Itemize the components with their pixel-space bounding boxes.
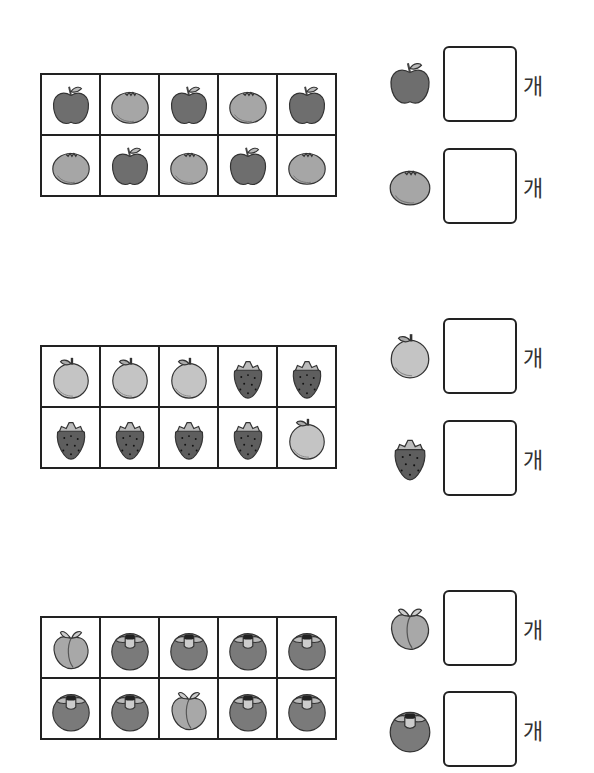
grid-cell-persimmon — [100, 617, 159, 678]
pear-count-box[interactable] — [443, 318, 517, 394]
persimmon-icon — [166, 625, 212, 671]
unit-label: 개 — [523, 170, 543, 202]
grid-cell-apple — [159, 74, 218, 135]
peach-persimmon-grid — [40, 616, 337, 740]
grid-cell-strawberry — [159, 407, 218, 468]
apple-icon — [225, 143, 271, 189]
grid-cell-strawberry — [218, 407, 277, 468]
apple-icon — [107, 143, 153, 189]
strawberry-icon — [107, 415, 153, 461]
tangerine-icon — [225, 82, 271, 128]
peach-icon — [166, 686, 212, 732]
unit-label: 개 — [523, 612, 543, 644]
answer-row-peach: 개 — [385, 590, 565, 666]
persimmon-icon — [225, 686, 271, 732]
apple-tangerine-grid — [40, 73, 337, 197]
persimmon-icon — [225, 625, 271, 671]
tangerine-icon — [107, 82, 153, 128]
grid-row — [41, 617, 336, 678]
grid-cell-pear — [100, 346, 159, 407]
grid-cell-tangerine — [277, 135, 336, 196]
apple-icon — [284, 82, 330, 128]
grid-cell-tangerine — [218, 74, 277, 135]
strawberry-label-icon — [385, 432, 435, 482]
grid-cell-persimmon — [277, 678, 336, 739]
strawberry-icon — [225, 354, 271, 400]
grid-cell-strawberry — [41, 407, 100, 468]
pear-label-icon — [385, 330, 435, 380]
grid-row — [41, 135, 336, 196]
persimmon-label-icon — [385, 703, 435, 753]
persimmon-icon — [385, 703, 435, 753]
apple-icon — [166, 82, 212, 128]
grid-cell-tangerine — [41, 135, 100, 196]
persimmon-icon — [107, 625, 153, 671]
peach-count-box[interactable] — [443, 590, 517, 666]
grid-cell-pear — [159, 346, 218, 407]
grid-cell-apple — [100, 135, 159, 196]
peach-icon — [48, 625, 94, 671]
apple-icon — [385, 58, 435, 108]
grid-cell-apple — [218, 135, 277, 196]
strawberry-icon — [225, 415, 271, 461]
pear-icon — [385, 330, 435, 380]
persimmon-icon — [107, 686, 153, 732]
persimmon-icon — [284, 686, 330, 732]
unit-label: 개 — [523, 68, 543, 100]
unit-label: 개 — [523, 340, 543, 372]
grid-cell-persimmon — [100, 678, 159, 739]
strawberry-icon — [48, 415, 94, 461]
tangerine-icon — [166, 143, 212, 189]
peach-icon — [385, 602, 435, 652]
unit-label: 개 — [523, 442, 543, 474]
tangerine-icon — [48, 143, 94, 189]
peach-label-icon — [385, 602, 435, 652]
grid-cell-persimmon — [41, 678, 100, 739]
strawberry-count-box[interactable] — [443, 420, 517, 496]
grid-cell-strawberry — [218, 346, 277, 407]
apple-count-box[interactable] — [443, 46, 517, 122]
grid-row — [41, 678, 336, 739]
strawberry-icon — [166, 415, 212, 461]
grid-cell-strawberry — [277, 346, 336, 407]
answer-row-pear: 개 — [385, 318, 565, 394]
apple-label-icon — [385, 58, 435, 108]
strawberry-icon — [284, 354, 330, 400]
pear-strawberry-grid — [40, 345, 337, 469]
grid-cell-pear — [41, 346, 100, 407]
grid-cell-persimmon — [159, 617, 218, 678]
pear-icon — [284, 415, 330, 461]
persimmon-icon — [48, 686, 94, 732]
answer-row-persimmon: 개 — [385, 691, 565, 767]
grid-cell-tangerine — [100, 74, 159, 135]
grid-cell-strawberry — [100, 407, 159, 468]
tangerine-label-icon — [385, 160, 435, 210]
grid-cell-apple — [41, 74, 100, 135]
pear-icon — [166, 354, 212, 400]
grid-cell-persimmon — [218, 678, 277, 739]
grid-cell-pear — [277, 407, 336, 468]
tangerine-icon — [385, 160, 435, 210]
grid-cell-persimmon — [218, 617, 277, 678]
persimmon-icon — [284, 625, 330, 671]
grid-row — [41, 407, 336, 468]
grid-row — [41, 346, 336, 407]
tangerine-count-box[interactable] — [443, 148, 517, 224]
strawberry-icon — [385, 432, 435, 482]
grid-row — [41, 74, 336, 135]
answer-row-apple: 개 — [385, 46, 565, 122]
grid-cell-persimmon — [277, 617, 336, 678]
pear-icon — [48, 354, 94, 400]
grid-cell-apple — [277, 74, 336, 135]
grid-cell-peach — [159, 678, 218, 739]
persimmon-count-box[interactable] — [443, 691, 517, 767]
answer-row-tangerine: 개 — [385, 148, 565, 224]
tangerine-icon — [284, 143, 330, 189]
pear-icon — [107, 354, 153, 400]
unit-label: 개 — [523, 713, 543, 745]
grid-cell-peach — [41, 617, 100, 678]
grid-cell-tangerine — [159, 135, 218, 196]
apple-icon — [48, 82, 94, 128]
answer-row-strawberry: 개 — [385, 420, 565, 496]
